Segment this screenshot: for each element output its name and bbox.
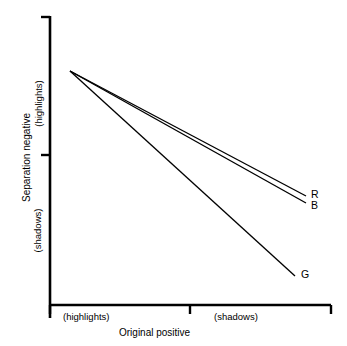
x-axis-tick-label-shadows: (shadows) (214, 311, 258, 322)
x-axis-title: Original positive (119, 327, 190, 338)
series-label-G: G (301, 269, 309, 280)
chart-figure: Separation negative (highlights) (shadow… (0, 0, 347, 346)
y-axis-title: Separation negative (21, 88, 32, 228)
series-line-G (70, 71, 295, 276)
series-label-B: B (311, 200, 318, 211)
y-axis-tick-label-highlights: (highlights) (33, 64, 44, 144)
chart-plot-area (0, 0, 347, 346)
series-line-B (70, 71, 306, 203)
y-axis-tick-label-shadows: (shadows) (32, 191, 43, 271)
x-axis-tick-label-highlights: (highlights) (63, 311, 109, 322)
series-line-R (70, 71, 306, 196)
